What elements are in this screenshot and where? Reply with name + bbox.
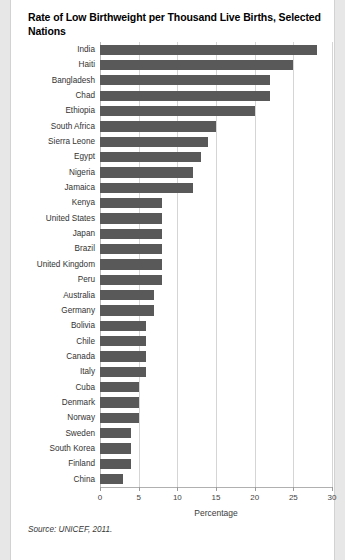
bar-row: Germany <box>11 303 334 318</box>
bar-row: Chile <box>11 334 334 349</box>
x-tick-label-15: 15 <box>204 493 228 502</box>
x-tick-10 <box>177 487 178 491</box>
bar-united-states <box>100 213 162 223</box>
bar-row: Denmark <box>11 395 334 410</box>
bar-sweden <box>100 428 131 438</box>
bar-row: Chad <box>11 88 334 103</box>
bar-row: Cuba <box>11 380 334 395</box>
bar-south-africa <box>100 121 216 131</box>
bar-chad <box>100 91 270 101</box>
bar-label-finland: Finland <box>11 456 95 471</box>
x-tick-15 <box>216 487 217 491</box>
bar-united-kingdom <box>100 259 162 269</box>
bar-label-bolivia: Bolivia <box>11 318 95 333</box>
bar-label-jamaica: Jamaica <box>11 180 95 195</box>
bar-australia <box>100 290 154 300</box>
bar-haiti <box>100 60 293 70</box>
bar-label-chad: Chad <box>11 88 95 103</box>
bar-label-germany: Germany <box>11 303 95 318</box>
bar-egypt <box>100 152 201 162</box>
bar-row: Norway <box>11 410 334 425</box>
bar-label-kenya: Kenya <box>11 195 95 210</box>
bar-row: China <box>11 472 334 487</box>
x-tick-label-0: 0 <box>88 493 112 502</box>
bar-germany <box>100 305 154 315</box>
bar-bolivia <box>100 321 146 331</box>
bar-row: Jamaica <box>11 180 334 195</box>
bar-label-peru: Peru <box>11 272 95 287</box>
bar-cuba <box>100 382 139 392</box>
page-gutter-right <box>334 0 345 560</box>
bar-row: Nigeria <box>11 165 334 180</box>
bar-row: United States <box>11 211 334 226</box>
bar-label-egypt: Egypt <box>11 149 95 164</box>
bar-label-china: China <box>11 472 95 487</box>
x-tick-30 <box>332 487 333 491</box>
figure-source: Source: UNICEF, 2011. <box>28 525 112 534</box>
bar-row: South Korea <box>11 441 334 456</box>
x-tick-25 <box>293 487 294 491</box>
bar-row: Ethiopia <box>11 103 334 118</box>
figure-title: Rate of Low Birthweight per Thousand Liv… <box>28 10 328 38</box>
bar-jamaica <box>100 183 193 193</box>
bar-label-italy: Italy <box>11 364 95 379</box>
bar-label-sweden: Sweden <box>11 426 95 441</box>
bar-ethiopia <box>100 106 255 116</box>
bar-label-japan: Japan <box>11 226 95 241</box>
bar-label-haiti: Haiti <box>11 57 95 72</box>
bar-row: Bolivia <box>11 318 334 333</box>
bar-label-united-kingdom: United Kingdom <box>11 257 95 272</box>
bar-label-australia: Australia <box>11 288 95 303</box>
figure-content: Rate of Low Birthweight per Thousand Liv… <box>11 0 334 560</box>
bar-japan <box>100 229 162 239</box>
bar-label-nigeria: Nigeria <box>11 165 95 180</box>
bar-row: Canada <box>11 349 334 364</box>
x-tick-label-5: 5 <box>127 493 151 502</box>
x-tick-20 <box>255 487 256 491</box>
bar-row: Brazil <box>11 241 334 256</box>
bar-south-korea <box>100 443 131 453</box>
bar-chart: Percentage 051015202530IndiaHaitiBanglad… <box>11 42 334 490</box>
bar-canada <box>100 351 146 361</box>
bar-row: Sweden <box>11 426 334 441</box>
bar-row: Italy <box>11 364 334 379</box>
bar-label-united-states: United States <box>11 211 95 226</box>
bar-denmark <box>100 397 139 407</box>
bar-italy <box>100 367 146 377</box>
bar-label-south-korea: South Korea <box>11 441 95 456</box>
bar-label-brazil: Brazil <box>11 241 95 256</box>
bar-row: Haiti <box>11 57 334 72</box>
x-tick-label-10: 10 <box>165 493 189 502</box>
x-tick-label-25: 25 <box>281 493 305 502</box>
bar-label-canada: Canada <box>11 349 95 364</box>
bar-label-south-africa: South Africa <box>11 119 95 134</box>
bar-nigeria <box>100 167 193 177</box>
bar-india <box>100 45 317 55</box>
bar-label-denmark: Denmark <box>11 395 95 410</box>
bar-row: Finland <box>11 456 334 471</box>
bar-row: India <box>11 42 334 57</box>
bar-label-sierra-leone: Sierra Leone <box>11 134 95 149</box>
x-tick-label-30: 30 <box>320 493 344 502</box>
bar-row: Sierra Leone <box>11 134 334 149</box>
bar-row: Japan <box>11 226 334 241</box>
bar-norway <box>100 413 139 423</box>
x-axis-title: Percentage <box>100 508 332 518</box>
x-tick-0 <box>100 487 101 491</box>
bar-bangladesh <box>100 75 270 85</box>
bar-kenya <box>100 198 162 208</box>
bar-row: Egypt <box>11 149 334 164</box>
bar-label-bangladesh: Bangladesh <box>11 73 95 88</box>
bar-row: Bangladesh <box>11 73 334 88</box>
bar-china <box>100 474 123 484</box>
bar-label-chile: Chile <box>11 334 95 349</box>
bar-chile <box>100 336 146 346</box>
bar-label-ethiopia: Ethiopia <box>11 103 95 118</box>
bar-finland <box>100 459 131 469</box>
figure-page: Rate of Low Birthweight per Thousand Liv… <box>0 0 345 560</box>
x-tick-5 <box>139 487 140 491</box>
bar-row: Kenya <box>11 195 334 210</box>
bar-label-norway: Norway <box>11 410 95 425</box>
bar-peru <box>100 275 162 285</box>
page-gutter-left <box>0 0 11 560</box>
